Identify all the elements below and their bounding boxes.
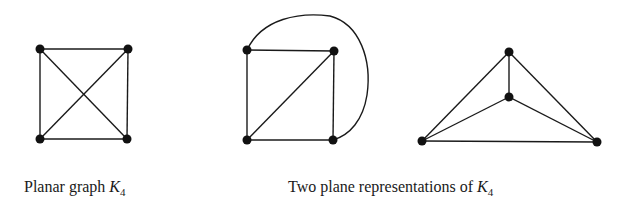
edge [422,97,509,141]
edge [422,141,597,142]
caption-subscript: 4 [120,186,126,198]
edge [247,51,334,140]
vertex [505,48,514,57]
caption-plane-representations: Two plane representations of K4 [288,178,494,198]
caption-planar-graph: Planar graph K4 [24,178,126,198]
edge [422,52,509,141]
plane-representation-2 [418,48,602,147]
vertex [124,45,133,54]
vertex [36,135,45,144]
vertex [593,138,602,147]
caption-text: Planar graph [24,178,109,196]
edge [333,51,334,140]
edge [247,50,334,51]
k4-diagram: Planar graph K4 Two plane representation… [0,0,624,204]
plane-representation-1 [243,15,369,145]
edge [509,97,597,142]
vertex [329,136,338,145]
vertex [418,137,427,146]
edge [127,49,128,139]
vertex [123,135,132,144]
caption-text: Two plane representations of [288,178,477,196]
planar-graph-k4 [36,45,133,144]
vertex [505,93,514,102]
caption-subscript: 4 [488,186,494,198]
vertex [330,47,339,56]
edge [509,52,597,142]
vertex [243,136,252,145]
vertex [243,46,252,55]
vertex [36,45,45,54]
